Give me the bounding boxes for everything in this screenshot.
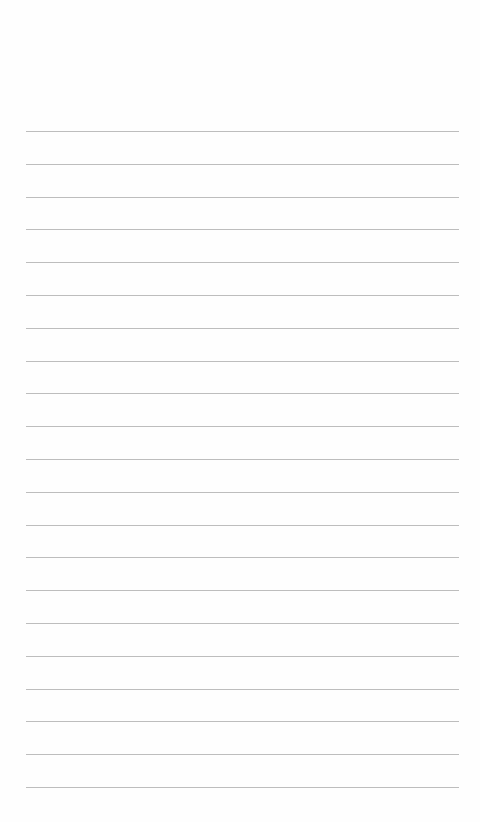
note-line-text[interactable]: [28, 134, 458, 164]
ruled-line: [26, 426, 459, 427]
ruled-line: [26, 328, 459, 329]
note-line-text[interactable]: [28, 101, 458, 131]
note-line-text[interactable]: [28, 462, 458, 492]
ruled-line: [26, 164, 459, 165]
note-line-text[interactable]: [28, 527, 458, 557]
note-line-text[interactable]: [28, 298, 458, 328]
ruled-line: [26, 656, 459, 657]
ruled-line: [26, 557, 459, 558]
ruled-line: [26, 721, 459, 722]
note-line-text[interactable]: [28, 265, 458, 295]
note-line-text[interactable]: [28, 396, 458, 426]
note-line-text[interactable]: [28, 757, 458, 787]
ruled-line: [26, 459, 459, 460]
note-line-text[interactable]: [28, 331, 458, 361]
note-line-text[interactable]: [28, 593, 458, 623]
ruled-line: [26, 262, 459, 263]
ruled-line: [26, 590, 459, 591]
note-line-text[interactable]: [28, 659, 458, 689]
note-line-text[interactable]: [28, 495, 458, 525]
ruled-line: [26, 197, 459, 198]
note-line-text[interactable]: [28, 363, 458, 393]
note-line-text[interactable]: [28, 560, 458, 590]
note-line-text[interactable]: [28, 724, 458, 754]
ruled-line: [26, 492, 459, 493]
ruled-line: [26, 787, 459, 788]
ruled-line: [26, 295, 459, 296]
note-line-text[interactable]: [28, 691, 458, 721]
note-line-text[interactable]: [28, 167, 458, 197]
ruled-line: [26, 689, 459, 690]
ruled-line: [26, 525, 459, 526]
ruled-line: [26, 131, 459, 132]
ruled-writing-area[interactable]: [0, 0, 480, 822]
ruled-line: [26, 754, 459, 755]
note-line-text[interactable]: [28, 199, 458, 229]
notepad-page[interactable]: [0, 0, 480, 822]
ruled-line: [26, 393, 459, 394]
ruled-line: [26, 229, 459, 230]
note-line-text[interactable]: [28, 626, 458, 656]
ruled-line: [26, 623, 459, 624]
note-line-text[interactable]: [28, 232, 458, 262]
ruled-line: [26, 361, 459, 362]
note-line-text[interactable]: [28, 429, 458, 459]
